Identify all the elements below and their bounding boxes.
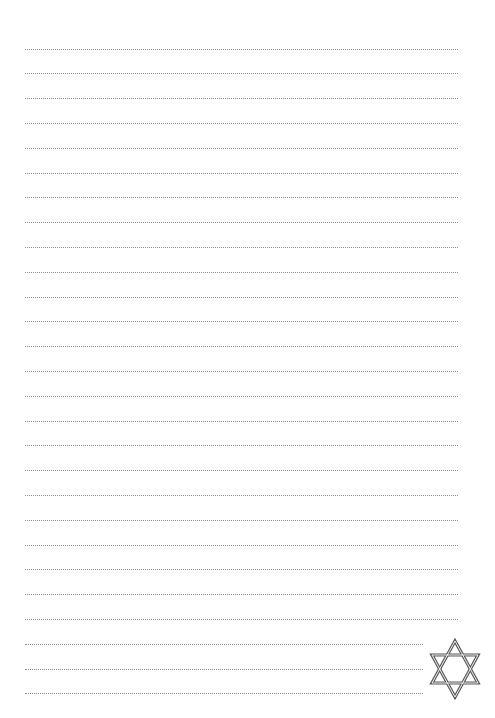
ruled-line — [25, 73, 458, 74]
ruled-line — [25, 346, 458, 347]
ruled-line — [25, 619, 458, 620]
ruled-line — [25, 272, 458, 273]
ruled-line — [25, 98, 458, 99]
ruled-line — [25, 470, 458, 471]
ruled-line — [25, 49, 458, 50]
ruled-line — [25, 148, 458, 149]
ruled-line — [25, 693, 423, 694]
ruled-line — [25, 669, 423, 670]
ruled-line — [25, 594, 458, 595]
star-of-david-icon — [429, 638, 481, 700]
ruled-line — [25, 396, 458, 397]
ruled-line — [25, 297, 458, 298]
ruled-line — [25, 222, 458, 223]
ruled-line — [25, 321, 458, 322]
ruled-line — [25, 421, 458, 422]
ruled-line — [25, 445, 458, 446]
ruled-line — [25, 545, 458, 546]
ruled-line — [25, 173, 458, 174]
ruled-line — [25, 644, 423, 645]
ruled-line — [25, 197, 458, 198]
ruled-line — [25, 247, 458, 248]
ruled-line — [25, 371, 458, 372]
ruled-line — [25, 520, 458, 521]
ruled-line — [25, 123, 458, 124]
ruled-line — [25, 569, 458, 570]
ruled-line — [25, 495, 458, 496]
